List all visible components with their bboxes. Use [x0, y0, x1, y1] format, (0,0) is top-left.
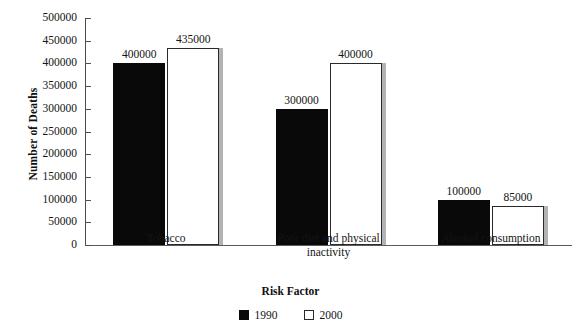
y-tick-label: 150000	[7, 171, 77, 183]
bar-value-label: 435000	[158, 33, 228, 45]
bar-1990-poor-diet-and-physical-inactivity	[276, 109, 328, 245]
y-tick-mark	[86, 18, 91, 19]
y-tick-mark	[86, 132, 91, 133]
legend-label: 1990	[255, 309, 278, 321]
y-tick-mark	[86, 109, 91, 110]
y-tick-label: 300000	[7, 103, 77, 115]
bar-chart: Number of Deaths 50000045000040000035000…	[0, 0, 581, 332]
y-tick-mark	[86, 63, 91, 64]
y-tick-label: 50000	[7, 216, 77, 228]
y-tick-label: 400000	[7, 57, 77, 69]
y-tick-label: 250000	[7, 126, 77, 138]
bar-2000-poor-diet-and-physical-inactivity	[330, 63, 382, 245]
y-tick-label: 200000	[7, 148, 77, 160]
bar-2000-tobacco	[167, 48, 219, 245]
y-tick-mark	[86, 154, 91, 155]
y-tick-label: 0	[7, 239, 77, 251]
category-label: Tobacco	[86, 232, 246, 246]
legend-hollow-square-icon	[304, 310, 314, 320]
y-tick-mark	[86, 41, 91, 42]
x-axis-title: Risk Factor	[0, 285, 581, 297]
category-label: Alcohol consumption	[411, 232, 571, 246]
bar-value-label: 300000	[267, 94, 337, 106]
legend-filled-square-icon	[239, 310, 249, 320]
chart-legend: 19902000	[0, 309, 581, 321]
y-tick-mark	[86, 177, 91, 178]
y-tick-mark	[86, 222, 91, 223]
category-label: Poor diet and physicalinactivity	[249, 232, 409, 259]
legend-item-2000[interactable]: 2000	[304, 309, 343, 321]
y-tick-label: 350000	[7, 80, 77, 92]
y-tick-label: 100000	[7, 194, 77, 206]
y-tick-label: 450000	[7, 35, 77, 47]
plot-area: 5000004500004000003500003000002500002000…	[85, 18, 572, 245]
legend-label: 2000	[320, 309, 343, 321]
bar-value-label: 85000	[483, 191, 553, 203]
bar-value-label: 400000	[321, 48, 391, 60]
bar-value-label: 400000	[104, 48, 174, 60]
legend-item-1990[interactable]: 1990	[239, 309, 278, 321]
bar-1990-tobacco	[113, 63, 165, 245]
y-tick-mark	[86, 200, 91, 201]
y-tick-label: 500000	[7, 12, 77, 24]
y-tick-mark	[86, 86, 91, 87]
